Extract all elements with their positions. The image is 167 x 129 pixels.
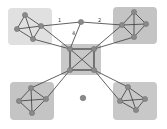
node <box>131 34 136 39</box>
hub-node <box>78 19 83 24</box>
edge-label-1: 1 <box>58 17 61 23</box>
node <box>14 26 19 31</box>
network-diagram: 1 2 4 <box>0 0 167 129</box>
edge-label-2: 2 <box>98 17 101 23</box>
node <box>67 67 72 72</box>
isolated-node <box>80 95 86 101</box>
group-top-left <box>8 8 52 45</box>
node <box>142 96 147 101</box>
node <box>22 12 27 17</box>
node <box>117 98 122 103</box>
node <box>38 23 43 28</box>
node <box>28 85 33 90</box>
node <box>119 22 124 27</box>
node <box>43 96 48 101</box>
node <box>91 67 96 72</box>
node <box>133 107 138 112</box>
node <box>143 21 148 26</box>
node <box>125 84 130 89</box>
node <box>67 46 72 51</box>
edge-label-4: 4 <box>72 30 75 36</box>
node <box>29 110 34 115</box>
node <box>16 98 21 103</box>
node <box>131 9 136 14</box>
node <box>91 46 96 51</box>
node <box>30 36 35 41</box>
